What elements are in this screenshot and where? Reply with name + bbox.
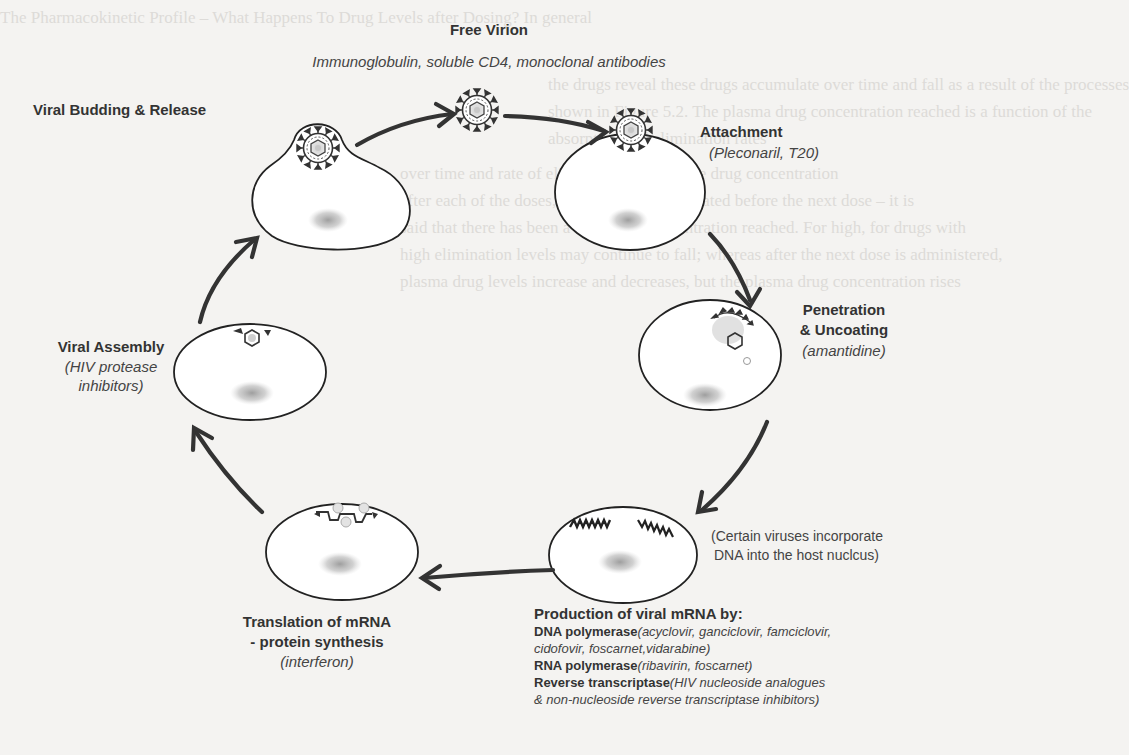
free-virion-title: Free Virion: [429, 20, 549, 39]
enzyme-drugs: (acyclovir, ganciclovir, famciclovir,: [638, 624, 832, 639]
translation-title-2: - protein synthesis: [192, 632, 442, 651]
translation-cell: [266, 503, 418, 600]
arrow-mrna-to-translation: [424, 570, 553, 578]
free-virion-drugs: Immunoglobulin, soluble CD4, monoclonal …: [279, 52, 699, 71]
mrna-production-cell: [549, 507, 697, 603]
nucleus: [608, 208, 648, 232]
translation-drugs: (interferon): [192, 652, 442, 671]
arrow-translation-to-assembly: [196, 432, 262, 512]
penetration-title-1: Penetration: [786, 300, 902, 319]
mrna-production-heading: Production of viral mRNA by:: [534, 604, 743, 623]
arrow-penetration-to-mrna: [702, 422, 767, 510]
assembly-drugs-1: (HIV protease: [36, 357, 186, 376]
penetration-title-2: & Uncoating: [786, 320, 902, 339]
enzyme-drugs: (HIV nucleoside analogues: [670, 675, 825, 690]
integration-note-1: (Certain viruses incorporate: [711, 527, 883, 546]
attachment-drugs: (Pleconaril, T20): [709, 143, 819, 162]
nucleus: [318, 552, 362, 576]
arrow-assembly-to-budding: [200, 240, 254, 322]
nucleus: [230, 381, 274, 405]
enzyme-reverse-transcriptase: Reverse transcriptase(HIV nucleoside ana…: [534, 674, 825, 691]
enzyme-dna-polymerase-drugs-cont: cidofovir, foscarnet,vidarabine): [534, 640, 710, 657]
enzyme-reverse-transcriptase-drugs-cont: & non-nucleoside reverse transcriptase i…: [534, 691, 819, 708]
attachment-title: Attachment: [700, 122, 783, 141]
enzyme-drugs: (ribavirin, foscarnet): [638, 658, 753, 673]
arrow-attachment-to-penetration: [710, 234, 750, 300]
arrow-budding-to-free: [357, 114, 452, 145]
assembly-cell: [174, 324, 326, 420]
nucleus: [308, 208, 348, 232]
nucleus: [598, 550, 642, 574]
free-virion-icon: [456, 89, 498, 131]
nucleus: [683, 383, 727, 407]
enzyme-rna-polymerase: RNA polymerase(ribavirin, foscarnet): [534, 657, 752, 674]
enzyme-name: RNA polymerase: [534, 658, 638, 673]
integration-note-2: DNA into the host nuclcus): [714, 546, 879, 565]
assembly-title: Viral Assembly: [36, 337, 186, 356]
penetration-cell: [639, 300, 781, 410]
enzyme-name: Reverse transcriptase: [534, 675, 670, 690]
assembly-drugs-2: inhibitors): [36, 376, 186, 395]
penetration-drugs: (amantidine): [786, 341, 902, 360]
attachment-cell: [555, 109, 705, 250]
enzyme-name: DNA polymerase: [534, 624, 638, 639]
enzyme-dna-polymerase: DNA polymerase(acyclovir, ganciclovir, f…: [534, 623, 831, 640]
translation-title-1: Translation of mRNA: [192, 612, 442, 631]
budding-title: Viral Budding & Release: [33, 100, 206, 119]
budding-cell: [252, 124, 410, 249]
